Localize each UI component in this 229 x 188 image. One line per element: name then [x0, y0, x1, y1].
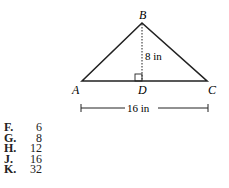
- answer-choices: F.6 G.8 H.12 J.16 K.32: [4, 122, 42, 175]
- label-d: D: [137, 83, 147, 97]
- label-a: A: [71, 83, 80, 97]
- right-angle-marker: [135, 74, 142, 81]
- height-label: 8 in: [145, 50, 162, 62]
- answer-letter: K.: [4, 164, 24, 175]
- base-label: 16 in: [127, 102, 150, 114]
- label-c: C: [208, 83, 217, 97]
- answer-value: 32: [24, 164, 42, 175]
- answer-choice[interactable]: K.32: [4, 164, 42, 175]
- label-b: B: [139, 8, 147, 22]
